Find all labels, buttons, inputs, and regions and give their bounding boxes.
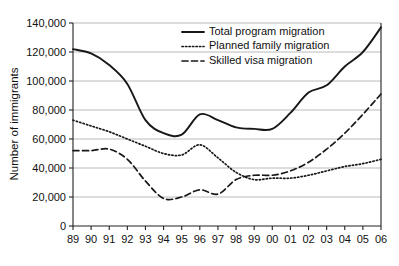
chart-canvas: 020,00040,00060,00080,000100,000120,0001…: [0, 0, 399, 266]
y-axis-title: Number of immigrants: [8, 67, 20, 180]
chart-legend: Total program migrationPlanned family mi…: [182, 25, 329, 66]
series-line-dotted: [73, 120, 381, 180]
x-tick-label: 98: [230, 233, 242, 245]
x-tick-label: 99: [248, 233, 260, 245]
legend-label: Total program migration: [209, 25, 325, 37]
legend-label: Planned family migration: [209, 39, 329, 51]
y-axis-ticks: 020,00040,00060,00080,000100,000120,0001…: [26, 17, 73, 232]
x-tick-label: 94: [157, 233, 169, 245]
x-tick-label: 03: [321, 233, 333, 245]
y-tick-label: 20,000: [32, 191, 66, 203]
x-tick-label: 96: [194, 233, 206, 245]
x-tick-label: 01: [284, 233, 296, 245]
x-tick-label: 05: [357, 233, 369, 245]
x-tick-label: 00: [266, 233, 278, 245]
x-tick-label: 93: [139, 233, 151, 245]
y-tick-label: 100,000: [26, 75, 66, 87]
y-tick-label: 120,000: [26, 46, 66, 58]
y-tick-label: 80,000: [32, 104, 66, 116]
x-tick-label: 06: [375, 233, 387, 245]
x-tick-label: 92: [121, 233, 133, 245]
x-tick-label: 04: [339, 233, 351, 245]
x-tick-label: 02: [302, 233, 314, 245]
x-tick-label: 89: [67, 233, 79, 245]
legend-label: Skilled visa migration: [209, 54, 312, 66]
x-tick-label: 90: [85, 233, 97, 245]
y-tick-label: 40,000: [32, 162, 66, 174]
y-tick-label: 140,000: [26, 17, 66, 29]
x-tick-label: 97: [212, 233, 224, 245]
y-tick-label: 60,000: [32, 133, 66, 145]
x-tick-label: 91: [103, 233, 115, 245]
line-chart: 020,00040,00060,00080,000100,000120,0001…: [0, 0, 399, 266]
y-tick-label: 0: [60, 220, 66, 232]
x-axis-ticks: 899091929394959697989900010203040506: [67, 226, 387, 245]
x-tick-label: 95: [176, 233, 188, 245]
